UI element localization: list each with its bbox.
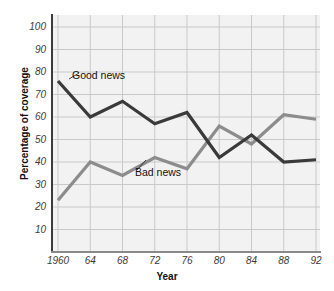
plot-area — [52, 15, 320, 252]
y-tick-label: 20 — [18, 202, 46, 212]
y-axis-line — [51, 14, 53, 253]
series-label-bad-news: Bad news — [135, 167, 181, 178]
x-axis-title: Year — [0, 271, 334, 282]
y-tick-label: 100 — [18, 22, 46, 32]
y-axis-title: Percentage of coverage — [19, 44, 30, 204]
y-tick-label: 10 — [18, 225, 46, 235]
chart-root: 102030405060708090100 196064687276808488… — [0, 0, 334, 291]
series-label-good-news: Good news — [72, 70, 125, 81]
x-axis-line — [51, 251, 321, 253]
x-tick-label: 92 — [296, 256, 334, 266]
gridlines — [52, 15, 320, 252]
